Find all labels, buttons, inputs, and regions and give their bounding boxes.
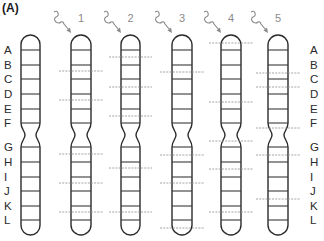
band-label-left: K xyxy=(4,200,12,212)
chromosome-number: 3 xyxy=(179,12,185,24)
irradiated-chromosome-2: 2 xyxy=(104,11,152,235)
wavy-arrow-icon xyxy=(104,11,121,33)
band-label-right: I xyxy=(310,171,313,183)
band-label-right: K xyxy=(310,200,318,212)
right-band-labels: ABCDEFGHIJKL xyxy=(310,44,319,226)
band-label-right: L xyxy=(310,214,317,226)
band-label-right: D xyxy=(310,88,318,100)
band-label-right: G xyxy=(310,141,319,153)
band-label-right: F xyxy=(310,117,317,129)
band-label-right: A xyxy=(310,44,318,56)
band-label-right: H xyxy=(310,156,318,168)
chromosomes: 12345 xyxy=(21,11,300,235)
chromosome-number: 4 xyxy=(228,12,234,24)
left-band-labels: ABCDEFGHIJKL xyxy=(4,44,13,226)
band-label-left: L xyxy=(4,214,11,226)
band-label-right: B xyxy=(310,59,318,71)
irradiated-chromosome-1: 1 xyxy=(54,11,103,235)
irradiated-chromosome-3: 3 xyxy=(155,11,204,235)
band-label-left: F xyxy=(4,117,11,129)
wavy-arrow-icon xyxy=(54,11,71,33)
band-label-left: I xyxy=(4,171,7,183)
band-label-left: E xyxy=(4,103,12,115)
band-label-left: D xyxy=(4,88,12,100)
chromosome-number: 2 xyxy=(128,12,134,24)
wavy-arrow-icon xyxy=(204,11,221,33)
band-label-left: J xyxy=(4,185,10,197)
panel-label: (A) xyxy=(2,1,19,15)
band-label-left: G xyxy=(4,141,13,153)
reference-chromosome xyxy=(21,35,40,235)
chromosome-breakage-diagram: (A) ABCDEFGHIJKL ABCDEFGHIJKL 12345 xyxy=(0,0,324,241)
band-label-left: A xyxy=(4,44,12,56)
chromosome-number: 5 xyxy=(275,12,281,24)
band-label-right: C xyxy=(310,73,318,85)
band-label-right: E xyxy=(310,103,318,115)
wavy-arrow-icon xyxy=(155,11,172,33)
irradiated-chromosome-5: 5 xyxy=(251,11,300,235)
band-label-left: B xyxy=(4,59,12,71)
band-label-left: H xyxy=(4,156,12,168)
wavy-arrow-icon xyxy=(251,11,268,33)
band-label-right: J xyxy=(310,185,316,197)
chromosome-number: 1 xyxy=(78,12,84,24)
diagram-canvas: (A) ABCDEFGHIJKL ABCDEFGHIJKL 12345 xyxy=(0,0,324,241)
irradiated-chromosome-4: 4 xyxy=(204,11,253,235)
band-label-left: C xyxy=(4,73,12,85)
